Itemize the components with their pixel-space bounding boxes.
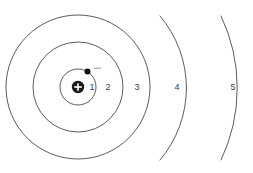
electron-shell-arc-4	[160, 16, 187, 160]
diagram-canvas: 1 2 3 4 5	[0, 0, 253, 173]
nucleus	[72, 81, 84, 93]
shell-label-4: 4	[174, 82, 179, 92]
shell-label-1: 1	[89, 82, 94, 92]
shell-label-5: 5	[230, 82, 235, 92]
electron	[85, 68, 102, 75]
electron-dot	[85, 69, 91, 75]
shell-label-2: 2	[105, 82, 110, 92]
electron-minus-icon	[94, 68, 101, 69]
bohr-model-diagram: 1 2 3 4 5	[0, 0, 253, 173]
shell-label-3: 3	[134, 82, 139, 92]
